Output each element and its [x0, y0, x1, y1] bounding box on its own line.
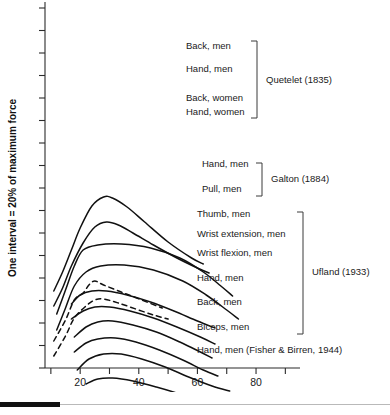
series-label: Back, men	[197, 296, 242, 307]
group-source-label: Galton (1884)	[271, 173, 329, 184]
series-label: Wrist flexion, men	[197, 247, 272, 258]
x-axis-tick-label: 80	[250, 376, 262, 388]
series-label: Back, women	[186, 92, 243, 103]
group-bracket-ufland	[297, 212, 303, 334]
footer-black-bar	[0, 402, 60, 407]
footer-rule	[60, 404, 390, 405]
curve-back-men	[54, 196, 203, 291]
curve-thumb-men	[71, 290, 215, 328]
annotation-layer: Back, menHand, menBack, womenHand, women…	[186, 40, 370, 355]
curve-layer	[54, 196, 239, 392]
series-label: Pull, men	[202, 183, 242, 194]
series-label: Hand, men	[186, 63, 232, 74]
x-axis-tick-label: 20	[74, 376, 86, 388]
y-axis-title: One interval = 20% of maximum force	[7, 99, 18, 278]
series-label: Biceps, men	[197, 321, 249, 332]
curve-back-women	[54, 281, 162, 341]
series-label: Thumb, men	[197, 208, 250, 219]
axis-layer: 20406080Age (years)One interval = 20% of…	[7, 2, 300, 392]
series-label: Wrist extension, men	[197, 228, 286, 239]
group-source-label: Quetelet (1835)	[266, 74, 332, 85]
strength-age-plot: 20406080Age (years)One interval = 20% of…	[0, 0, 390, 392]
series-label: Hand, men (Fisher & Birren, 1944)	[197, 344, 342, 355]
series-label: Hand, men	[202, 158, 248, 169]
series-label: Hand, men	[197, 272, 243, 283]
group-bracket-quetelet	[251, 41, 257, 118]
group-bracket-galton	[256, 163, 262, 196]
group-source-label: Ufland (1933)	[312, 266, 370, 277]
series-label: Back, men	[186, 40, 231, 51]
series-label: Hand, women	[186, 106, 245, 117]
figure-muscle-strength-vs-age: 20406080Age (years)One interval = 20% of…	[0, 0, 390, 415]
